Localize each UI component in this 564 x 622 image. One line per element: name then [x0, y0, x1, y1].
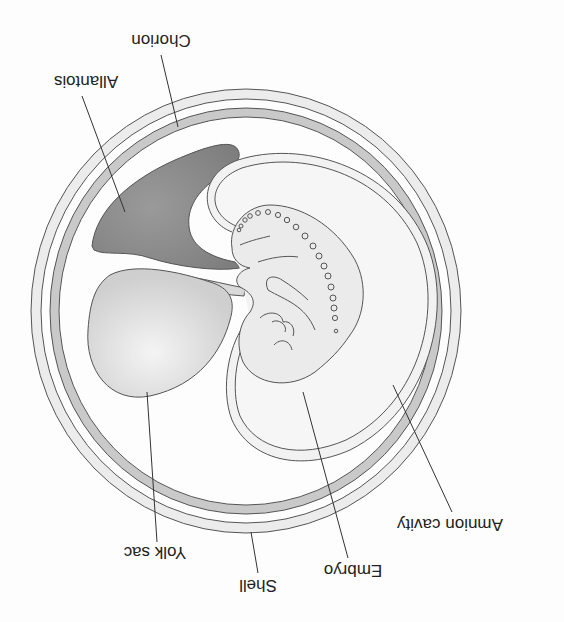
label-chorion: Chorion: [131, 31, 191, 50]
label-amnion-cavity: Amnion cavity: [397, 515, 503, 534]
diagram-canvas: Chorion Allantois Yolk sac Shell Embryo …: [0, 0, 564, 622]
label-shell: Shell: [239, 576, 277, 595]
label-allantois: Allantois: [54, 72, 118, 91]
leader-shell: [251, 532, 258, 573]
amniotic-egg-diagram: Chorion Allantois Yolk sac Shell Embryo …: [0, 0, 564, 622]
label-embryo: Embryo: [324, 561, 383, 580]
label-yolk-sac: Yolk sac: [123, 543, 186, 562]
